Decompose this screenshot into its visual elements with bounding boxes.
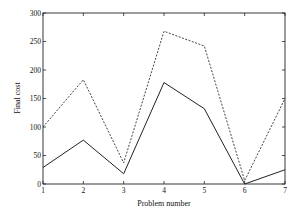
x-tick-label: 5 <box>202 186 206 195</box>
x-tick-label: 6 <box>243 186 247 195</box>
y-tick-label: 250 <box>30 37 42 46</box>
plot-frame <box>43 13 285 184</box>
y-tick-label: 300 <box>30 9 42 18</box>
x-tick-label: 7 <box>283 186 287 195</box>
series-dashed-line <box>43 31 285 180</box>
y-tick-label: 50 <box>34 151 42 160</box>
y-tick-label: 100 <box>30 123 42 132</box>
line-chart: 050100150200250300 1234567 Problem numbe… <box>0 0 301 216</box>
series-solid-line <box>43 83 285 184</box>
x-axis-label: Problem number <box>137 199 191 208</box>
y-tick-label: 150 <box>30 94 42 103</box>
x-tick-label: 1 <box>41 186 45 195</box>
x-tick-label: 3 <box>122 186 126 195</box>
x-axis: 1234567 <box>41 13 287 195</box>
x-tick-label: 4 <box>162 186 166 195</box>
series-lines <box>43 31 285 184</box>
plot-border <box>43 13 285 184</box>
y-tick-label: 200 <box>30 66 42 75</box>
x-tick-label: 2 <box>81 186 85 195</box>
y-axis-label: Final cost <box>13 82 22 114</box>
